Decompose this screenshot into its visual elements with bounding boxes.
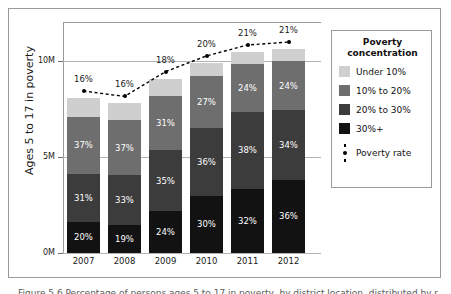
bar-segment[interactable]	[67, 98, 100, 117]
bar-segment[interactable]: 30%	[190, 196, 223, 253]
bar-2008[interactable]: 37%33%19%	[108, 103, 141, 253]
bar-2012[interactable]: 24%34%36%	[272, 49, 305, 253]
y-axis-tick-label: 0M	[10, 248, 55, 257]
legend-item-label: 30%+	[356, 124, 384, 134]
y-axis-tick-label: 5M	[10, 152, 55, 161]
bar-segment-label: 35%	[149, 176, 182, 186]
bar-segment[interactable]: 19%	[108, 225, 141, 253]
legend-item[interactable]: 30%+	[339, 122, 426, 135]
legend-swatch	[339, 104, 350, 115]
bar-segment[interactable]: 31%	[149, 96, 182, 150]
legend-item-label: Poverty rate	[356, 148, 411, 158]
bar-segment[interactable]	[231, 52, 264, 64]
bar-2011[interactable]: 24%38%32%	[231, 52, 264, 253]
bar-segment-label: 24%	[231, 83, 264, 93]
bar-segment[interactable]: 31%	[67, 174, 100, 222]
bar-segment-label: 36%	[272, 211, 305, 221]
bar-segment[interactable]: 37%	[108, 120, 141, 175]
bar-segment-label: 19%	[108, 234, 141, 244]
legend-item-label: 10% to 20%	[356, 86, 411, 96]
bar-segment[interactable]: 20%	[67, 222, 100, 253]
legend-swatch	[339, 123, 350, 134]
bar-segment[interactable]	[149, 79, 182, 96]
bar-segment[interactable]	[272, 49, 305, 61]
legend-swatch	[339, 66, 350, 77]
bar-segment[interactable]: 35%	[149, 150, 182, 211]
bar-segment[interactable]: 24%	[231, 64, 264, 112]
bar-segment-label: 38%	[231, 145, 264, 155]
chart-legend: Poverty concentration Under 10%10% to 20…	[331, 30, 432, 188]
y-axis-tick-label: 10M	[10, 56, 55, 65]
y-axis-tick	[58, 157, 63, 158]
legend-item[interactable]: Under 10%	[339, 65, 426, 78]
bar-segment-label: 37%	[67, 140, 100, 150]
figure-caption: Figure 5.6 Percentage of persons ages 5 …	[18, 288, 438, 294]
bar-2009[interactable]: 31%35%24%	[149, 79, 182, 253]
bar-2007[interactable]: 37%31%20%	[67, 98, 100, 253]
bar-segment[interactable]: 33%	[108, 175, 141, 224]
bar-segment-label: 33%	[108, 195, 141, 205]
bar-segment[interactable]: 24%	[272, 61, 305, 110]
bar-segment-label: 34%	[272, 140, 305, 150]
legend-item-poverty-rate[interactable]: Poverty rate	[339, 144, 426, 162]
bar-segment-label: 20%	[67, 232, 100, 242]
bar-segment-label: 24%	[149, 227, 182, 237]
bar-segment-label: 30%	[190, 219, 223, 229]
legend-title-line2: concentration	[339, 48, 426, 59]
legend-item[interactable]: 20% to 30%	[339, 103, 426, 116]
bar-segment[interactable]	[108, 103, 141, 119]
bar-segment[interactable]: 36%	[190, 128, 223, 196]
bar-segment[interactable]: 37%	[67, 117, 100, 174]
bar-segment-label: 31%	[149, 118, 182, 128]
y-axis-tick	[58, 61, 63, 62]
bar-segment-label: 36%	[190, 157, 223, 167]
bar-segment-label: 24%	[272, 81, 305, 91]
legend-items: Under 10%10% to 20%20% to 30%30%+	[339, 65, 426, 135]
bar-segment[interactable]	[190, 63, 223, 76]
x-axis-tick-label: 2012	[265, 256, 313, 266]
bar-segment-label: 32%	[231, 216, 264, 226]
y-gridline	[63, 253, 321, 254]
legend-swatch	[339, 85, 350, 96]
bar-segment[interactable]: 34%	[272, 110, 305, 179]
legend-item-label: Under 10%	[356, 67, 406, 77]
y-axis-tick	[58, 253, 63, 254]
legend-title-line1: Poverty	[339, 37, 426, 48]
bar-2010[interactable]: 27%36%30%	[190, 63, 223, 253]
figure-container: Ages 5 to 17 in poverty 0M5M10M37%31%20%…	[0, 0, 451, 294]
bar-segment[interactable]: 38%	[231, 112, 264, 188]
bar-segment[interactable]: 24%	[149, 211, 182, 253]
bar-segment-label: 37%	[108, 143, 141, 153]
bar-segment-label: 31%	[67, 193, 100, 203]
legend-title: Poverty concentration	[339, 37, 426, 59]
legend-item[interactable]: 10% to 20%	[339, 84, 426, 97]
bar-segment[interactable]: 27%	[190, 76, 223, 127]
bar-segment-label: 27%	[190, 97, 223, 107]
legend-item-label: 20% to 30%	[356, 105, 411, 115]
y-axis-title: Ages 5 to 17 in poverty	[23, 26, 36, 196]
bar-segment[interactable]: 32%	[231, 189, 264, 253]
poverty-rate-key-icon	[339, 144, 350, 162]
bar-segment[interactable]: 36%	[272, 180, 305, 253]
